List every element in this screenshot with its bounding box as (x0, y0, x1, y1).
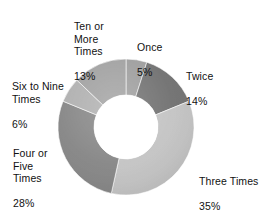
slice-label-name: Four or Five Times (13, 147, 71, 184)
slice-label-value: 5% (137, 66, 179, 78)
slice-label-value: 35% (199, 200, 275, 212)
donut-chart: Ten or More Times 13% Once 5% Twice 14% … (0, 0, 275, 224)
donut-center-hole (94, 95, 158, 159)
slice-label-name: Twice (186, 70, 234, 82)
slice-label-name: Once (137, 41, 179, 53)
slice-label-six-to-nine-times: Six to Nine Times 6% (12, 68, 84, 142)
slice-label-four-or-five-times: Four or Five Times 28% (13, 135, 71, 222)
slice-label-name: Three Times (199, 175, 275, 187)
slice-label-value: 28% (13, 197, 71, 209)
slice-label-three-times: Three Times 35% (199, 163, 275, 224)
slice-label-name: Six to Nine Times (12, 80, 84, 105)
slice-label-value: 14% (186, 95, 234, 107)
slice-label-name: Ten or More Times (74, 20, 132, 57)
slice-label-twice: Twice 14% (186, 58, 234, 120)
slice-label-once: Once 5% (137, 29, 179, 91)
slice-label-value: 6% (12, 118, 84, 130)
